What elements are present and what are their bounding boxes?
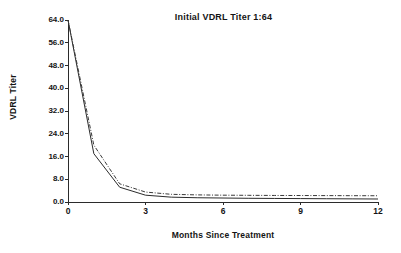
plot-area [0,0,401,253]
series-line-dash-dot-curve [68,20,378,196]
data-series [68,20,378,199]
series-line-solid-curve [68,20,378,199]
chart-figure: Initial VDRL Titer 1:64 VDRL Titer Month… [0,0,401,253]
axis-lines [68,20,378,202]
